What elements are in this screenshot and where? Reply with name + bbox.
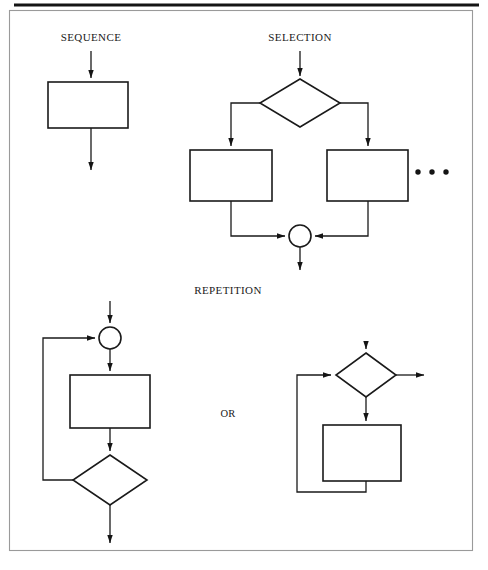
- sequence-process-box: [48, 82, 128, 128]
- section-sequence: SEQUENCE: [48, 31, 128, 170]
- flowchart-canvas: SEQUENCE SELECTION: [0, 0, 488, 570]
- selection-left-merge-arrow: [231, 201, 285, 236]
- rep1-merge-circle: [99, 327, 121, 349]
- sequence-label: SEQUENCE: [61, 31, 122, 43]
- selection-right-merge-arrow: [315, 201, 368, 236]
- selection-right-branch-arrow: [340, 103, 368, 146]
- rep2-body-box: [323, 425, 401, 481]
- selection-label: SELECTION: [268, 31, 331, 43]
- diagram-page: SEQUENCE SELECTION: [0, 0, 488, 570]
- section-selection: SELECTION: [190, 31, 449, 270]
- repetition-label: REPETITION: [194, 284, 262, 296]
- rep1-body-box: [70, 375, 150, 428]
- repetition-variant-post-test: [297, 342, 424, 492]
- selection-ellipsis-icon: [415, 169, 448, 174]
- selection-branch-box-right: [327, 150, 408, 201]
- selection-merge-circle: [289, 225, 311, 247]
- rep2-decision-diamond: [336, 353, 396, 397]
- selection-branch-box-left: [190, 150, 272, 201]
- selection-left-branch-arrow: [231, 103, 260, 146]
- selection-decision-diamond: [260, 79, 340, 127]
- repetition-variant-pre-test: [43, 301, 150, 543]
- section-repetition: REPETITION OR: [43, 284, 424, 543]
- rep1-decision-diamond: [73, 455, 147, 505]
- repetition-or-label: OR: [220, 408, 235, 419]
